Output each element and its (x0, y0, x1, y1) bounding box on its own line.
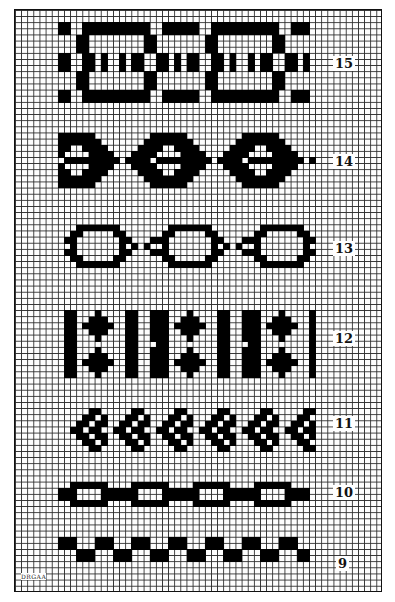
chart-grid: DRGAA (14, 9, 382, 592)
pattern-number-label: 9 (336, 556, 349, 571)
artist-signature: DRGAA (21, 573, 46, 580)
pattern-number-label: 14 (333, 154, 355, 169)
pattern-number-label: 15 (333, 56, 355, 71)
pattern-number-label: 11 (333, 416, 355, 431)
pattern-number-label: 12 (333, 331, 355, 346)
pattern-number-label: 13 (333, 241, 355, 256)
pattern-number-label: 10 (333, 485, 355, 500)
